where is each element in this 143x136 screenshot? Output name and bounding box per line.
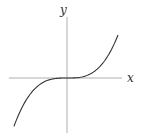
x-axis-label: x — [127, 71, 134, 85]
cubic-curve — [14, 35, 118, 126]
cubic-plot: y x — [0, 0, 143, 136]
y-axis-label: y — [59, 3, 67, 17]
